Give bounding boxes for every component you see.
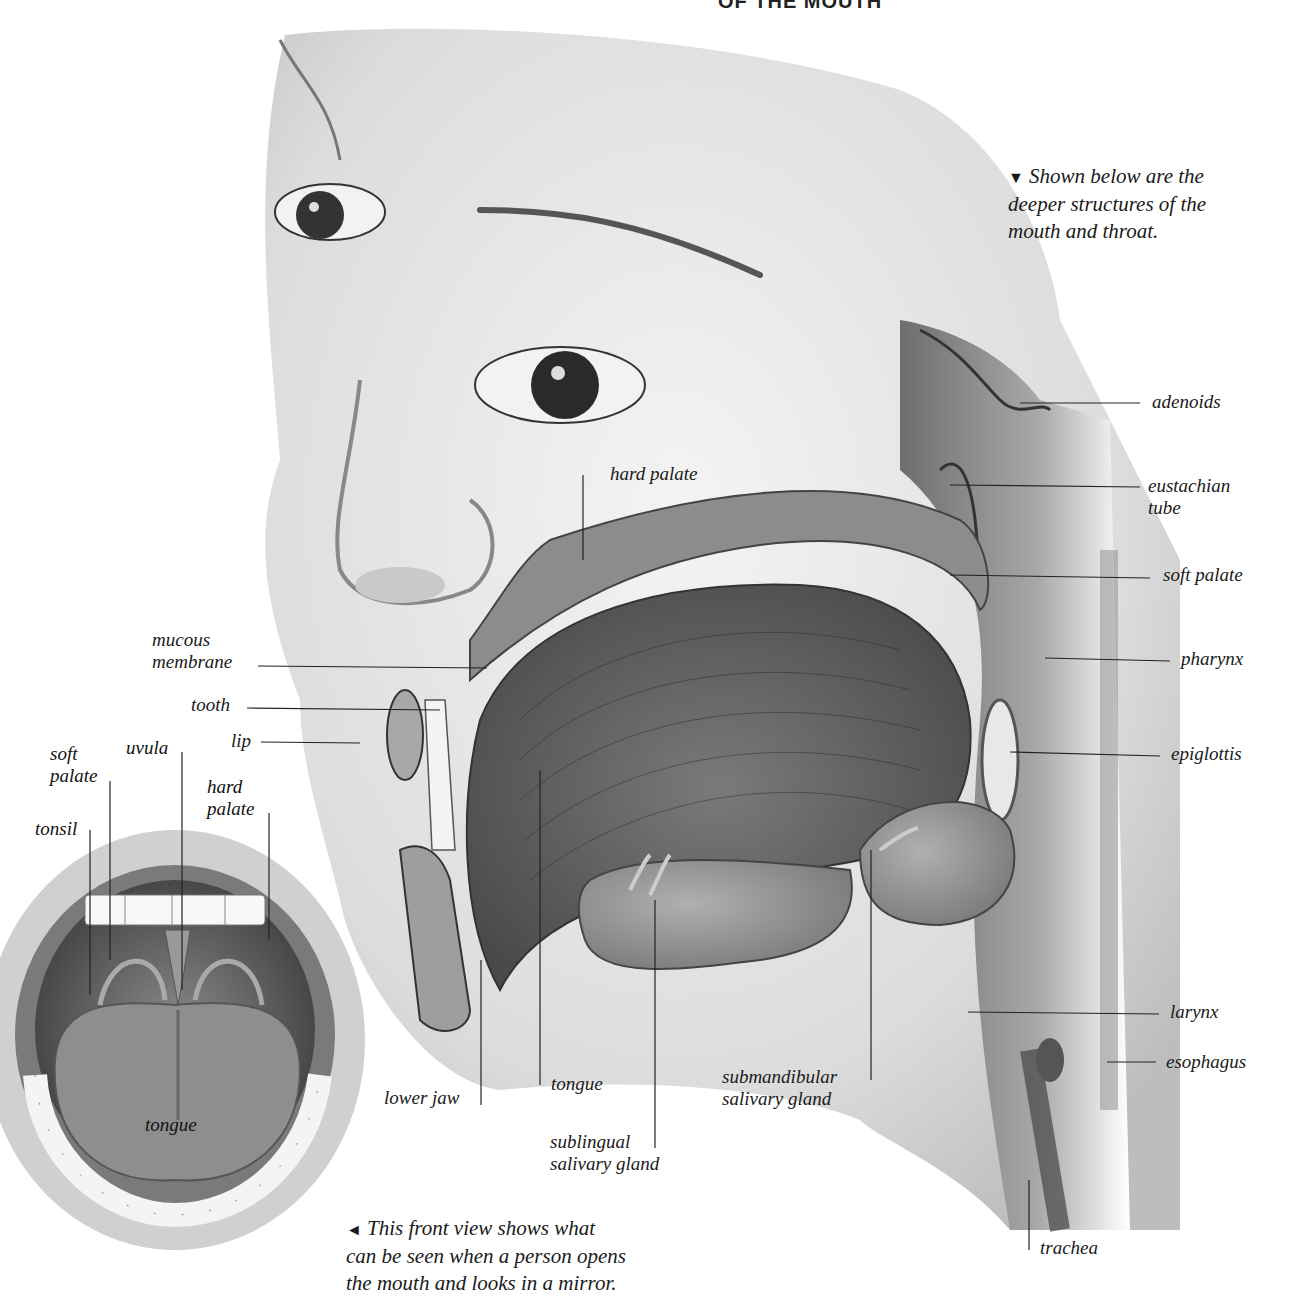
caption-line: can be seen when a person opens xyxy=(346,1244,626,1268)
label-larynx: larynx xyxy=(1170,1001,1219,1023)
label-epiglottis: epiglottis xyxy=(1171,743,1242,765)
label-line: membrane xyxy=(152,651,232,672)
label-lower-jaw: lower jaw xyxy=(384,1087,459,1109)
label-line: submandibular xyxy=(722,1066,837,1087)
label-line: eustachian xyxy=(1148,475,1230,496)
label-esophagus: esophagus xyxy=(1166,1051,1246,1073)
label-submandibular-salivary-gland: submandibular salivary gland xyxy=(722,1066,837,1110)
caption-line: mouth and throat. xyxy=(1008,219,1158,243)
label-front-uvula: uvula xyxy=(126,737,168,759)
label-soft-palate: soft palate xyxy=(1163,564,1243,586)
label-line: mucous xyxy=(152,629,210,650)
label-mucous-membrane: mucous membrane xyxy=(152,629,232,673)
label-tooth: tooth xyxy=(191,694,230,716)
triangle-down-icon: ▼ xyxy=(1008,169,1024,186)
label-line: hard xyxy=(207,776,242,797)
caption-front-view: ◄ This front view shows what can be seen… xyxy=(346,1215,686,1297)
caption-line: This front view shows what xyxy=(367,1216,595,1240)
label-trachea: trachea xyxy=(1040,1237,1098,1259)
label-adenoids: adenoids xyxy=(1152,391,1221,413)
label-front-soft-palate: soft palate xyxy=(50,743,98,787)
label-line: soft xyxy=(50,743,77,764)
label-line: salivary gland xyxy=(550,1153,659,1174)
caption-line: Shown below are the xyxy=(1029,164,1204,188)
label-eustachian-tube: eustachian tube xyxy=(1148,475,1230,519)
label-front-hard-palate: hard palate xyxy=(207,776,255,820)
label-front-tonsil: tonsil xyxy=(35,818,77,840)
label-hard-palate: hard palate xyxy=(610,463,697,485)
label-front-tongue: tongue xyxy=(145,1114,197,1136)
label-line: tube xyxy=(1148,497,1181,518)
caption-deeper-structures: ▼ Shown below are the deeper structures … xyxy=(1008,163,1268,245)
label-lip: lip xyxy=(231,730,251,752)
label-sublingual-salivary-gland: sublingual salivary gland xyxy=(550,1131,659,1175)
caption-line: deeper structures of the xyxy=(1008,192,1206,216)
label-line: palate xyxy=(50,765,98,786)
triangle-left-icon: ◄ xyxy=(346,1221,362,1238)
label-line: salivary gland xyxy=(722,1088,831,1109)
caption-line: the mouth and looks in a mirror. xyxy=(346,1271,616,1295)
label-line: palate xyxy=(207,798,255,819)
label-tongue: tongue xyxy=(551,1073,603,1095)
label-pharynx: pharynx xyxy=(1181,648,1243,670)
label-line: sublingual xyxy=(550,1131,630,1152)
